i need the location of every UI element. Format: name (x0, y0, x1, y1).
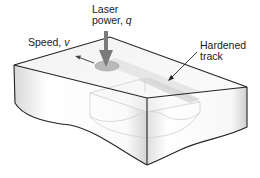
laser-power-label: Laser power, q (92, 4, 132, 26)
hardened-track-label: Hardened track (200, 40, 246, 62)
block-diagram (0, 0, 260, 178)
speed-label: Speed, v (28, 37, 69, 48)
track-label-line2: track (200, 51, 246, 62)
laser-label-line2: power, q (92, 15, 132, 26)
